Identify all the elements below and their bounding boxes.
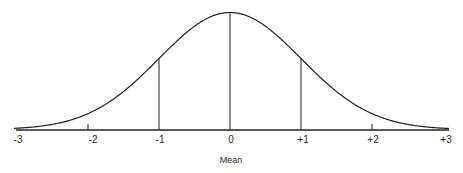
tick-label-plus-2: +2 <box>367 134 378 145</box>
tick-label-plus-3: +3 <box>440 134 451 145</box>
normal-curve-chart <box>0 0 463 173</box>
tick-label-minus-1: -1 <box>156 134 165 145</box>
tick-label-plus-1: +1 <box>297 134 308 145</box>
bell-curve <box>14 13 449 129</box>
tick-label-minus-3: -3 <box>14 134 23 145</box>
tick-label-minus-2: -2 <box>89 134 98 145</box>
sd-lines <box>159 13 301 130</box>
tick-label-0: 0 <box>228 134 234 145</box>
x-axis-title: Mean <box>220 155 243 165</box>
